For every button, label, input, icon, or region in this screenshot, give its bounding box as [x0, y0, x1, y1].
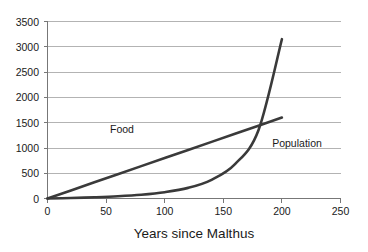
- x-tick-label-150: 150: [215, 205, 233, 217]
- y-tick-label-2000: 2000: [16, 91, 40, 103]
- x-tick-label-200: 200: [273, 205, 291, 217]
- y-tick-label-0: 0: [33, 193, 39, 205]
- x-tick-label-100: 100: [156, 205, 174, 217]
- y-tick-label-500: 500: [21, 167, 39, 179]
- x-tick-label-250: 250: [332, 205, 350, 217]
- y-tick-label-2500: 2500: [16, 66, 40, 78]
- y-tick-label-3000: 3000: [16, 41, 40, 53]
- y-tick-label-3500: 3500: [16, 16, 40, 28]
- series-annotation-population: Population: [272, 137, 322, 149]
- x-tick-label-0: 0: [45, 205, 51, 217]
- x-tick-label-50: 50: [100, 205, 112, 217]
- y-tick-label-1000: 1000: [16, 142, 40, 154]
- series-annotation-food: Food: [110, 123, 134, 135]
- chart-background: [0, 0, 368, 252]
- x-axis-title: Years since Malthus: [134, 226, 255, 241]
- chart-canvas: 3500 3000 2500 2000 1500 1000 500 0 0 50…: [0, 0, 368, 252]
- y-tick-label-1500: 1500: [16, 117, 40, 129]
- chart-figure: 3500 3000 2500 2000 1500 1000 500 0 0 50…: [0, 0, 368, 252]
